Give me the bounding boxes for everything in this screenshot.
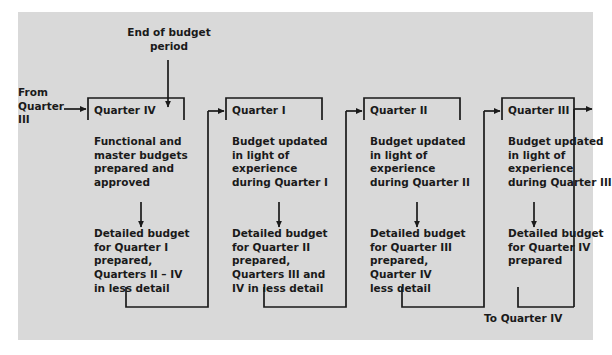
box-2-lower-text: Detailed budget for Quarter II prepared,…: [232, 227, 336, 295]
box-3-upper-text: Budget updated in light of experience du…: [370, 135, 470, 190]
budget-cycle-diagram: End of budget period From Quarter III Qu…: [18, 12, 593, 340]
box-4-title: Quarter III: [508, 104, 604, 118]
box-4-bottom-bracket: [518, 287, 574, 307]
box-2-title: Quarter I: [232, 104, 328, 118]
box-1-upper-text: Functional and master budgets prepared a…: [94, 135, 194, 190]
end-of-budget-period-label: End of budget period: [116, 26, 222, 53]
box-2-upper-text: Budget updated in light of experience du…: [232, 135, 332, 190]
box-3-title: Quarter II: [370, 104, 466, 118]
box-4-lower-text: Detailed budget for Quarter IV prepared: [508, 227, 608, 268]
box-1-title: Quarter IV: [94, 104, 190, 118]
to-quarter-iv-label: To Quarter IV: [484, 312, 594, 326]
box-4-upper-text: Budget updated in light of experience du…: [508, 135, 612, 190]
box-3-lower-text: Detailed budget for Quarter III prepared…: [370, 227, 470, 295]
from-quarter-iii-label: From Quarter III: [18, 86, 66, 127]
box-1-lower-text: Detailed budget for Quarter I prepared, …: [94, 227, 194, 295]
